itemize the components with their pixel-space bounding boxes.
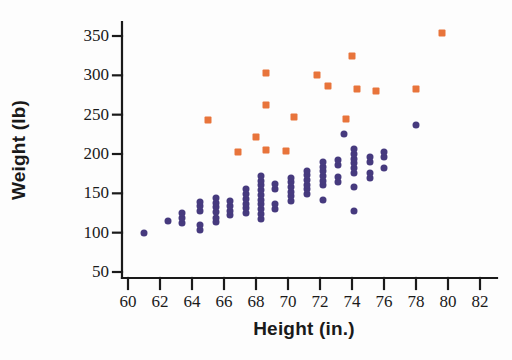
- data-point: [349, 52, 356, 59]
- data-point: [243, 186, 250, 193]
- data-point: [291, 114, 298, 121]
- data-point: [350, 146, 357, 153]
- data-point: [334, 157, 341, 164]
- data-point: [205, 117, 212, 124]
- data-point: [350, 207, 357, 214]
- data-point: [272, 180, 279, 187]
- data-point: [350, 184, 357, 191]
- data-point: [413, 86, 420, 93]
- data-point: [366, 154, 373, 161]
- data-point: [283, 147, 290, 154]
- data-point: [313, 72, 320, 79]
- data-point: [262, 69, 269, 76]
- data-point: [413, 121, 420, 128]
- data-point: [381, 165, 388, 172]
- data-point: [262, 102, 269, 109]
- data-point: [257, 173, 264, 180]
- data-point: [213, 195, 220, 202]
- data-point: [373, 88, 380, 95]
- data-point: [353, 86, 360, 93]
- data-point: [272, 201, 279, 208]
- data-point: [381, 149, 388, 156]
- data-point: [179, 210, 186, 217]
- data-point: [262, 147, 269, 154]
- data-point: [366, 169, 373, 176]
- data-point: [320, 158, 327, 165]
- data-point: [227, 198, 234, 205]
- data-point: [165, 217, 172, 224]
- data-point: [235, 148, 242, 155]
- data-point: [253, 133, 260, 140]
- data-point: [288, 174, 295, 181]
- scatter-plot-figure: Weight (lb) Height (in.) 501001502002503…: [0, 0, 512, 360]
- plot-data-area: [0, 0, 512, 360]
- data-point: [342, 115, 349, 122]
- data-point: [304, 167, 311, 174]
- data-point: [341, 131, 348, 138]
- data-point: [325, 83, 332, 90]
- data-point: [334, 173, 341, 180]
- data-point: [197, 198, 204, 205]
- data-point: [197, 221, 204, 228]
- data-point: [141, 230, 148, 237]
- data-point: [320, 196, 327, 203]
- data-point: [438, 29, 445, 36]
